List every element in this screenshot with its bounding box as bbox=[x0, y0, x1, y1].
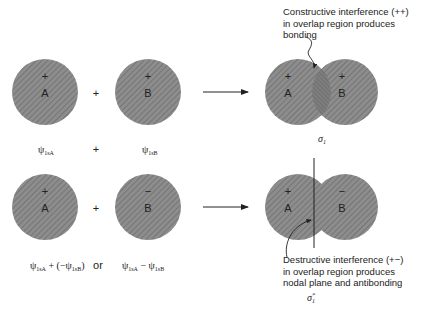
top-orbital-a: + A bbox=[12, 59, 78, 125]
annotation-line: nodal plane and antibonding bbox=[283, 277, 403, 289]
sign-plus: + bbox=[42, 70, 48, 82]
svg-text:+: + bbox=[93, 143, 99, 155]
svg-text:ψ1sA − ψ1sB: ψ1sA − ψ1sB bbox=[122, 260, 164, 272]
atom-label-b: B bbox=[144, 87, 151, 99]
annotation-line: Destructive interference (+−) bbox=[283, 254, 403, 266]
sign-plus: + bbox=[42, 185, 48, 197]
sigma-1-star-label: σ*1 bbox=[307, 292, 315, 304]
sigma-1-label: σ1 bbox=[318, 133, 326, 145]
svg-text:ψ1sA: ψ1sA bbox=[38, 144, 55, 156]
bottom-equation: ψ1sA + (−ψ1sB) or ψ1sA − ψ1sB σ*1 bbox=[30, 259, 315, 304]
annotation-line: in overlap region produces bbox=[283, 266, 403, 278]
sign-plus: + bbox=[339, 70, 345, 82]
annotation-line: bonding bbox=[283, 29, 409, 41]
atom-label-a: A bbox=[284, 87, 292, 99]
bonding-orbital-sigma: + A + B bbox=[265, 59, 378, 125]
atom-label-b: B bbox=[338, 87, 345, 99]
atom-label-a: A bbox=[284, 202, 292, 214]
sign-plus: + bbox=[145, 70, 151, 82]
sign-minus: − bbox=[145, 185, 151, 197]
svg-text:ψ1sB: ψ1sB bbox=[142, 144, 158, 156]
top-equation: ψ1sA + ψ1sB σ1 bbox=[38, 133, 326, 156]
sign-plus: + bbox=[285, 185, 291, 197]
plus-operator: + bbox=[93, 202, 99, 214]
atom-label-a: A bbox=[41, 202, 49, 214]
atom-label-b: B bbox=[144, 202, 151, 214]
sign-minus: − bbox=[339, 185, 345, 197]
destructive-annotation: Destructive interference (+−) in overlap… bbox=[283, 254, 403, 289]
atom-label-b: B bbox=[338, 202, 345, 214]
top-orbital-b: + B bbox=[115, 59, 181, 125]
bottom-orbital-a: + A bbox=[12, 174, 78, 240]
svg-text:or: or bbox=[93, 259, 103, 271]
plus-operator: + bbox=[93, 87, 99, 99]
annotation-line: in overlap region produces bbox=[283, 18, 409, 30]
atom-label-a: A bbox=[41, 87, 49, 99]
bottom-orbital-b: − B bbox=[115, 174, 181, 240]
sign-plus: + bbox=[285, 70, 291, 82]
antibonding-orbital-sigma-star: + A − B bbox=[265, 158, 378, 248]
constructive-annotation: Constructive interference (++) in overla… bbox=[283, 6, 409, 41]
svg-text:ψ1sA + (−ψ1sB): ψ1sA + (−ψ1sB) bbox=[30, 260, 85, 272]
annotation-line: Constructive interference (++) bbox=[283, 6, 409, 18]
